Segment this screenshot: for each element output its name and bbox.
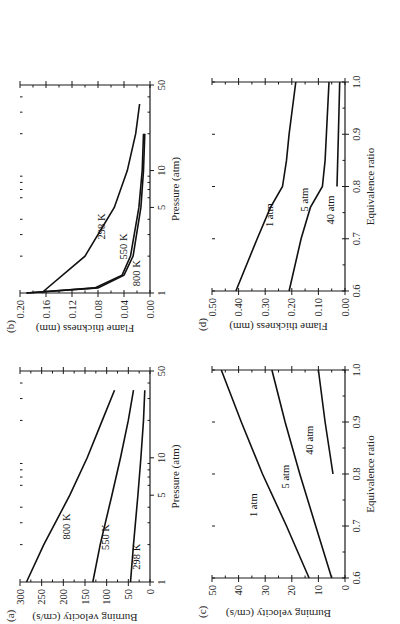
panel-c-ytick-label: 40 (233, 585, 244, 596)
panel-c-ytick-label: 50 (207, 585, 218, 596)
panel-a-series-800-k (27, 390, 115, 582)
panel-a-xtick-label: 5 (156, 493, 167, 498)
panel-a-ytick-label: 300 (15, 589, 26, 605)
panel-d-series-5-atm (289, 82, 329, 291)
panel-d-curve-label-5-atm: 5 atm (299, 188, 310, 212)
panel-c-x-title: Equivalence ratio (364, 435, 376, 513)
panel-c-xtick-label: 0.7 (351, 519, 362, 532)
panel-a-ytick-label: 0 (145, 589, 156, 594)
panel-d-curve-label-1-atm: 1 atm (264, 203, 275, 227)
panel-d-xtick-label: 0.8 (351, 180, 362, 193)
panel-b-ytick-label: 0.20 (15, 300, 26, 318)
panel-a-y-title: Burning velocity (cm/s) (32, 611, 137, 624)
panel-b-y-title: Flame thickness (mm) (35, 322, 134, 335)
panel-d-xtick-label: 1.0 (351, 75, 362, 88)
panel-b-x-title: Pressure (atm) (169, 157, 182, 221)
panel-a-ytick-label: 150 (80, 589, 91, 605)
panel-d-ytick-label: 0.30 (260, 298, 271, 316)
panel-d-ytick-label: 0.40 (233, 298, 244, 316)
panel-c-xtick-label: 0.8 (351, 467, 362, 480)
panel-b-curve-label-298-k: 298 K (96, 213, 107, 239)
panel-c-curve-label-5-atm: 5 atm (280, 465, 291, 489)
panel-a-ytick-label: 100 (101, 589, 112, 605)
panel-c-ytick-label: 0 (340, 585, 351, 590)
panel-a-x-title: Pressure (atm) (169, 444, 182, 508)
panel-d-xtick-label: 0.6 (351, 284, 362, 297)
panel-c-xtick-label: 0.6 (351, 571, 362, 584)
panel-b-ytick-label: 0.08 (93, 300, 104, 318)
figure-svg: 050100150200250300151050Pressure (atm)Bu… (0, 0, 400, 624)
panel-a-curve-label-550-k: 550 K (100, 524, 111, 550)
panel-b-series-800-k (27, 134, 145, 293)
panel-d-xtick-label: 0.9 (351, 128, 362, 141)
panel-c-curve-label-1-atm: 1 atm (248, 493, 259, 517)
panel-a-ytick-label: 250 (36, 589, 47, 605)
panel-c-ytick-label: 20 (286, 585, 297, 596)
panel-b-curve-label-800-k: 800 K (131, 260, 142, 286)
panel-b-series-298-k (42, 104, 140, 293)
panel-d-ytick-label: 0.10 (313, 298, 324, 316)
panel-a-xtick-label: 1 (156, 579, 167, 584)
panel-a-xtick-label: 10 (156, 453, 167, 464)
panel-a-ytick-label: 50 (123, 589, 134, 600)
figure-page: 050100150200250300151050Pressure (atm)Bu… (0, 0, 400, 624)
panel-b-xtick-label: 50 (156, 80, 167, 91)
panel-a-series-550-k (93, 390, 134, 582)
panel-a-curve-label-800-k: 800 K (61, 513, 72, 539)
panel-b-curve-label-550-k: 550 K (118, 233, 129, 259)
panel-b-ytick-label: 0.12 (67, 300, 78, 318)
panel-b-xtick-label: 10 (156, 165, 167, 176)
panel-c-series-1-atm (221, 370, 309, 578)
panel-c-ytick-label: 30 (260, 585, 271, 596)
panel-c-xtick-label: 0.9 (351, 415, 362, 428)
panel-a-ytick-label: 200 (58, 589, 69, 605)
panel-d-curve-label-40-atm: 40 atm (325, 196, 336, 225)
panel-b-ytick-label: 0.00 (145, 300, 156, 318)
panel-c-label: (c) (196, 605, 209, 618)
panel-b-xtick-label: 5 (156, 205, 167, 210)
panel-d-ytick-label: 0.00 (340, 298, 351, 316)
panel-c-series-40-atm (318, 370, 333, 474)
panel-d-xtick-label: 0.7 (351, 232, 362, 245)
panel-d-label: (d) (196, 318, 209, 331)
panel-d-series-40-atm (337, 82, 340, 187)
panel-a-label: (a) (4, 609, 17, 622)
panel-b-ytick-label: 0.04 (119, 299, 130, 318)
panel-b-ytick-label: 0.16 (41, 300, 52, 318)
panel-d-ytick-label: 0.50 (207, 298, 218, 316)
panel-c-y-title: Burning velocity (cm/s) (226, 607, 331, 620)
panel-a-curve-label-298-k: 298 K (131, 543, 142, 569)
panel-b-label: (b) (4, 320, 17, 333)
panel-d-y-title: Flame thickness (mm) (229, 320, 328, 333)
panel-b-series-550-k (27, 134, 144, 293)
panel-d-x-title: Equivalence ratio (364, 147, 376, 225)
panel-c-curve-label-40-atm: 40 atm (304, 426, 315, 455)
panel-a-xtick-label: 50 (156, 366, 167, 377)
panel-d-ytick-label: 0.20 (286, 298, 297, 316)
panel-c-xtick-label: 1.0 (351, 363, 362, 376)
panel-c-ytick-label: 10 (313, 585, 324, 596)
panel-b-xtick-label: 1 (156, 290, 167, 295)
panel-d-series-1-atm (236, 82, 296, 291)
